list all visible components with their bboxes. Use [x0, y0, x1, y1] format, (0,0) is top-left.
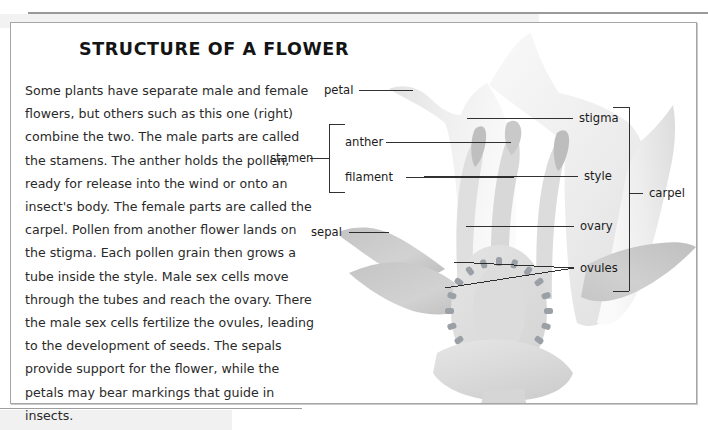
- flower-illustration: [341, 23, 696, 403]
- label-stigma: stigma: [579, 111, 619, 125]
- flower-stalk: [479, 389, 527, 403]
- page-rule-top: [28, 12, 708, 14]
- label-anther: anther: [345, 135, 383, 149]
- label-filament: filament: [345, 170, 393, 184]
- label-stamen: stamen: [270, 151, 313, 165]
- label-carpel: carpel: [649, 186, 685, 200]
- body-paragraph: Some plants have separate male and femal…: [25, 79, 315, 427]
- label-ovules: ovules: [580, 261, 618, 275]
- label-ovary: ovary: [580, 219, 613, 233]
- page-canvas: STRUCTURE OF A FLOWER Some plants have s…: [0, 0, 708, 430]
- diagram-frame: STRUCTURE OF A FLOWER Some plants have s…: [10, 22, 697, 404]
- page-title: STRUCTURE OF A FLOWER: [79, 39, 349, 59]
- label-petal: petal: [324, 83, 353, 97]
- label-style: style: [584, 169, 612, 183]
- label-sepal: sepal: [311, 225, 342, 239]
